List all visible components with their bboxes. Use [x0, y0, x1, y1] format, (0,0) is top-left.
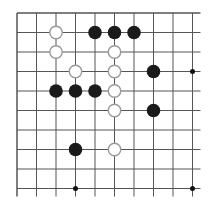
black-stone	[127, 26, 141, 40]
white-stone	[108, 46, 120, 58]
board-grid	[17, 13, 201, 197]
black-stone	[147, 65, 161, 79]
star-point	[190, 69, 195, 74]
white-stone	[108, 104, 120, 116]
white-stone	[50, 46, 62, 58]
black-stone	[49, 84, 63, 98]
white-stone	[50, 26, 62, 38]
star-point	[73, 186, 78, 191]
black-stone	[88, 84, 102, 98]
black-stone	[147, 104, 161, 118]
star-point	[190, 186, 195, 191]
black-stone	[69, 143, 83, 157]
white-stone	[108, 65, 120, 77]
black-stone	[108, 26, 122, 40]
go-board[interactable]	[0, 0, 215, 214]
black-stone	[88, 26, 102, 40]
white-stone	[69, 65, 81, 77]
black-stone	[69, 84, 83, 98]
white-stone	[108, 85, 120, 97]
white-stone	[108, 143, 120, 155]
